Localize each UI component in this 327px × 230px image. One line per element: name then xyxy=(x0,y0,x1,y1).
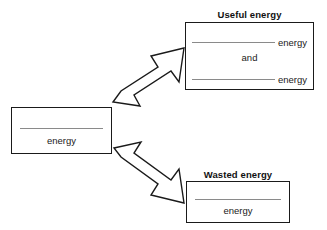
useful-energy-heading: Useful energy xyxy=(185,9,314,20)
useful-energy-word-1: energy xyxy=(275,37,307,48)
input-energy-blank-line[interactable] xyxy=(20,128,103,129)
useful-energy-row-1: energy xyxy=(192,37,307,48)
wasted-energy-blank-line[interactable] xyxy=(195,199,281,200)
useful-energy-conjunction: and xyxy=(186,52,313,63)
arrow-to-wasted-icon xyxy=(112,141,190,211)
arrow-to-useful-icon xyxy=(112,46,190,116)
input-energy-word: energy xyxy=(12,135,111,146)
useful-energy-box: energy and energy xyxy=(185,22,314,90)
wasted-energy-heading: Wasted energy xyxy=(186,169,290,180)
useful-energy-row-2: energy xyxy=(192,74,307,85)
input-energy-box: energy xyxy=(11,107,112,154)
wasted-energy-word: energy xyxy=(187,205,289,216)
wasted-energy-box: energy xyxy=(186,181,290,223)
useful-energy-blank-line-2[interactable] xyxy=(192,79,275,80)
useful-energy-word-2: energy xyxy=(275,74,307,85)
useful-energy-blank-line-1[interactable] xyxy=(192,42,275,43)
energy-flow-diagram: energy Useful energy energy and energy W… xyxy=(0,0,327,230)
